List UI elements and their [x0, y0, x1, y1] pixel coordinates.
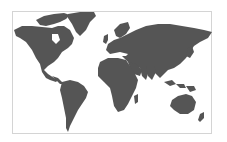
region-australia [170, 94, 196, 114]
region-se-asia-islands [164, 80, 196, 92]
region-india [146, 66, 156, 80]
region-madagascar [134, 94, 138, 104]
region-north-america [14, 26, 74, 82]
region-uk [103, 34, 108, 44]
region-south-america [60, 80, 88, 132]
world-map [0, 0, 227, 142]
region-new-zealand [198, 112, 204, 122]
region-arctic-canada [36, 13, 70, 26]
region-greenland [68, 12, 96, 36]
